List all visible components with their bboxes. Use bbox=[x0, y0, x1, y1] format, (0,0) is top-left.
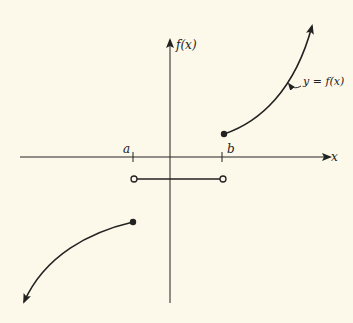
closed-endpoint-b bbox=[221, 131, 227, 137]
curve-label-pointer bbox=[289, 84, 301, 88]
open-endpoint-a bbox=[131, 176, 137, 182]
closed-endpoint-a bbox=[130, 219, 136, 225]
x-axis-label: x bbox=[331, 150, 338, 164]
tick-a-label: a bbox=[123, 142, 130, 156]
left-curve bbox=[24, 222, 133, 302]
y-axis-label: f(x) bbox=[175, 38, 197, 52]
open-endpoint-b bbox=[220, 176, 226, 182]
tick-b-label: b bbox=[227, 142, 235, 156]
function-graph: x f(x) a b y = f(x) bbox=[0, 0, 353, 323]
right-curve bbox=[224, 26, 312, 134]
curve-label: y = f(x) bbox=[302, 75, 344, 88]
